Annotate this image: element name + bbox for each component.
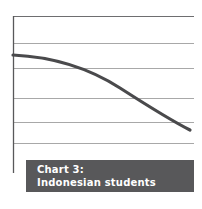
caption-line-1: Chart 3: — [37, 163, 194, 176]
chart-figure: Chart 3: Indonesian students — [0, 0, 202, 209]
chart-caption-box: Chart 3: Indonesian students — [26, 160, 194, 192]
series-line-indonesian-students — [13, 55, 190, 130]
caption-line-2: Indonesian students — [37, 176, 194, 189]
